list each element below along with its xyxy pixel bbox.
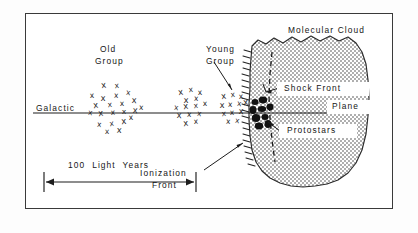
protostar-marker (267, 104, 274, 111)
protostar-marker (259, 97, 267, 104)
protostar-marker (258, 106, 266, 112)
protostar-marker (250, 106, 257, 114)
star-marker: x (97, 120, 102, 129)
star-marker: x (114, 91, 119, 100)
old-group-label-line1: Old (100, 44, 116, 55)
star-marker: x (109, 119, 114, 128)
star-marker: x (226, 117, 231, 126)
star-marker: x (230, 90, 235, 99)
star-cluster-young-group: xxxxxxxxxxxx (220, 90, 249, 126)
star-marker: x (177, 110, 182, 120)
star-marker: x (243, 97, 249, 108)
young-group-label-line2: Group (206, 56, 235, 67)
star-marker: x (239, 106, 244, 116)
protostar-marker (252, 114, 260, 122)
plane-label: Plane (332, 101, 359, 112)
star-marker: x (121, 116, 127, 126)
scale-bar-label: 100 Light Years (68, 160, 149, 171)
star-marker: x (101, 93, 106, 103)
ionization-front-label-line2: Front (152, 180, 177, 191)
galactic-label: Galactic (36, 103, 75, 114)
star-marker: x (139, 103, 144, 112)
star-marker: x (230, 108, 234, 117)
protostar-marker (262, 114, 269, 120)
old-group-label-line2: Group (95, 56, 124, 67)
star-marker: x (114, 81, 119, 90)
star-marker: x (132, 95, 137, 105)
star-marker: x (117, 125, 123, 135)
star-marker: x (188, 85, 193, 94)
star-marker: x (101, 80, 107, 91)
star-marker: x (183, 118, 189, 128)
young-group-label-line1: Young (206, 44, 235, 55)
star-cluster-old-group: xxxxxxxxxxxxxxxxxxxxxx (88, 80, 144, 136)
star-marker: x (111, 108, 116, 117)
protostars-label: Protostars (287, 125, 336, 136)
star-marker: x (88, 108, 93, 117)
star-marker: x (105, 127, 109, 136)
star-marker: x (235, 116, 240, 125)
figure-canvas: xxxxxxxxxxxxxxxxxxxxxxxxxxxxxxxxxxxxxxxx… (0, 0, 418, 233)
shock-front-label: Shock Front (284, 83, 341, 94)
star-marker: x (194, 117, 199, 126)
star-marker: x (187, 110, 192, 119)
protostar-marker (252, 99, 259, 105)
protostar-marker (255, 123, 263, 130)
star-marker: x (133, 105, 139, 115)
star-marker: x (122, 107, 126, 116)
star-marker: x (129, 113, 133, 122)
ionization-front-leader (204, 143, 243, 170)
molecular-cloud-label: Molecular Cloud (288, 25, 365, 36)
star-marker: x (90, 91, 94, 100)
star-marker: x (126, 88, 131, 97)
star-marker: x (203, 99, 207, 108)
star-markers-layer: xxxxxxxxxxxxxxxxxxxxxxxxxxxxxxxxxxxxxxxx… (88, 80, 249, 136)
star-cluster-middle-group: xxxxxxxxxxxxxx (174, 85, 207, 128)
star-marker: x (221, 109, 226, 118)
